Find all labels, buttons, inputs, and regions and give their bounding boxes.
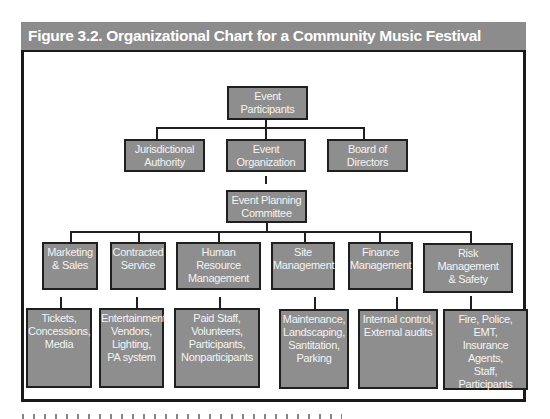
connector-marketing: [70, 231, 72, 242]
node-event-participants: Event Participants: [227, 86, 308, 120]
connector-contracted: [138, 231, 140, 242]
cropped-caption-text: [22, 414, 342, 419]
connector-finance: [379, 231, 381, 242]
details-contracted-service: Entertainment, Vendors, Lighting, PA sys…: [99, 308, 164, 388]
connector-jurisdictional: [156, 127, 158, 139]
connector-site-details: [314, 297, 316, 309]
node-board-of-directors: Board of Directors: [327, 139, 408, 172]
details-finance-management: Internal control, External audits: [358, 309, 438, 389]
connector-departments-bus: [70, 231, 472, 233]
details-site-management: Maintenance, Landscaping, Santitation, P…: [279, 309, 349, 389]
node-jurisdictional-authority: Jurisdictional Authority: [124, 139, 205, 172]
node-risk-management-safety: Risk Management & Safety: [423, 243, 513, 293]
connector-hr-details: [219, 297, 221, 308]
connector-board: [363, 127, 365, 139]
connector-risk-details: [470, 296, 472, 310]
node-event-organization: Event Organization: [226, 139, 306, 172]
node-human-resource-management: Human Resource Management: [176, 242, 261, 290]
connector-risk: [470, 231, 472, 243]
node-marketing-sales: Marketing & Sales: [42, 242, 98, 290]
connector-organization: [265, 127, 267, 139]
node-finance-management: Finance Management: [348, 242, 413, 290]
figure-title: Figure 3.2. Organizational Chart for a C…: [21, 22, 526, 52]
connector-site: [304, 231, 306, 242]
connector-finance-details: [396, 297, 398, 309]
connector-contracted-details: [136, 297, 138, 308]
node-event-planning-committee: Event Planning Committee: [226, 190, 307, 223]
details-human-resource-management: Paid Staff, Volunteers, Participants, No…: [174, 308, 260, 388]
connector-level1-bus: [156, 127, 365, 129]
details-risk-management-safety: Fire, Police, EMT, Insurance Agents, Sta…: [443, 309, 528, 390]
connector-org-committee: [265, 176, 267, 184]
connector-hr: [218, 231, 220, 242]
node-site-management: Site Management: [271, 242, 335, 290]
details-marketing-sales: Tickets, Concessions, Media: [26, 308, 92, 388]
node-contracted-service: Contracted Service: [110, 242, 166, 290]
connector-marketing-details: [60, 297, 62, 308]
